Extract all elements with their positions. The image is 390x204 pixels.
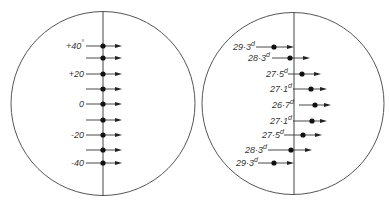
right-row: 26·7d — [271, 98, 331, 110]
right-circle-panel: 29·3d28·3d27·5d27·1d26·7d27·1d27·5d28·3d… — [202, 13, 384, 195]
arrow-icon — [305, 148, 312, 152]
arrow-icon — [287, 161, 294, 165]
left-row: +40° — [66, 39, 122, 51]
point-dot — [100, 43, 105, 48]
row-label: +20 — [69, 69, 84, 79]
arrow-icon — [324, 103, 331, 107]
left-row — [86, 55, 122, 60]
point-dot — [271, 44, 276, 49]
row-label: 27·5d — [265, 67, 289, 79]
row-label: 29·3d — [232, 40, 256, 52]
row-label: +40° — [66, 39, 84, 51]
right-row: 27·1d — [269, 114, 327, 126]
right-row: 28·3d — [244, 143, 312, 155]
point-dot — [100, 132, 105, 137]
row-label: 29·3d — [235, 156, 259, 168]
row-label: 27·5d — [261, 128, 285, 140]
left-row: +20 — [69, 69, 122, 79]
arrow-icon — [303, 56, 310, 60]
row-label: 0 — [79, 99, 84, 109]
row-label-superscript: d — [288, 82, 293, 89]
arrow-icon — [115, 161, 122, 165]
arrow-icon — [115, 148, 122, 152]
point-dot — [312, 102, 317, 107]
row-label: -20 — [71, 130, 84, 140]
arrow-icon — [315, 133, 322, 137]
row-label-superscript: d — [263, 143, 268, 150]
point-dot — [100, 55, 105, 60]
left-circle-panel: +40°+200-20-40 — [11, 12, 195, 196]
row-label: -40 — [71, 158, 84, 168]
point-dot — [299, 71, 304, 76]
point-dot — [271, 160, 276, 165]
arrow-icon — [314, 72, 321, 76]
row-label-superscript: d — [251, 40, 256, 47]
point-dot — [100, 71, 105, 76]
left-row — [86, 147, 122, 152]
row-label-superscript: d — [280, 128, 285, 135]
point-dot — [100, 86, 105, 91]
arrow-icon — [115, 87, 122, 91]
right-row: 27·5d — [265, 67, 321, 79]
left-row — [86, 117, 122, 122]
point-dot — [308, 86, 313, 91]
row-label-superscript: d — [254, 156, 259, 163]
row-label: 28·3d — [247, 51, 271, 63]
row-label-superscript: d — [288, 114, 293, 121]
point-dot — [287, 55, 292, 60]
point-dot — [100, 147, 105, 152]
right-row: 29·3d — [235, 156, 294, 168]
left-row: -20 — [71, 130, 122, 140]
point-dot — [300, 132, 305, 137]
arrow-icon — [115, 72, 122, 76]
row-label: 27·1d — [269, 82, 293, 94]
arrow-icon — [115, 118, 122, 122]
row-label-superscript: d — [284, 67, 289, 74]
arrow-icon — [320, 119, 327, 123]
arrow-icon — [287, 45, 294, 49]
arrow-icon — [115, 56, 122, 60]
left-row: -40 — [71, 158, 122, 168]
diagram-canvas: +40°+200-20-40 29·3d28·3d27·5d27·1d26·7d… — [0, 0, 390, 204]
row-label: 27·1d — [269, 114, 293, 126]
point-dot — [100, 101, 105, 106]
arrow-icon — [115, 44, 122, 48]
point-dot — [309, 118, 314, 123]
point-dot — [288, 147, 293, 152]
arrow-icon — [115, 133, 122, 137]
point-dot — [100, 117, 105, 122]
arrow-icon — [115, 102, 122, 106]
right-row: 27·1d — [269, 82, 327, 94]
row-label-superscript: ° — [81, 39, 84, 46]
point-dot — [100, 160, 105, 165]
row-label: 28·3d — [244, 143, 268, 155]
right-row: 28·3d — [247, 51, 310, 63]
left-row: 0 — [79, 99, 122, 109]
right-row: 29·3d — [232, 40, 294, 52]
arrow-icon — [320, 87, 327, 91]
left-row — [86, 86, 122, 91]
right-row: 27·5d — [261, 128, 322, 140]
row-label: 26·7d — [271, 98, 295, 110]
row-label-superscript: d — [266, 51, 271, 58]
